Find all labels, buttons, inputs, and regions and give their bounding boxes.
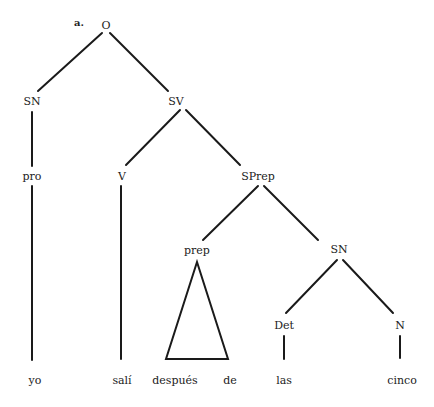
tree-edges	[32, 33, 400, 360]
node-prep: prep	[184, 244, 210, 257]
node-O: O	[101, 19, 110, 32]
edge-SN-Det	[286, 260, 337, 313]
syntax-tree: a. O SN SV pro V SPrep prep SN Det N yo …	[0, 0, 434, 407]
leaf-las: las	[276, 374, 292, 387]
edge-O-SV	[110, 33, 168, 91]
node-SN-2: SN	[330, 243, 348, 256]
edge-SPrep-prep	[203, 186, 258, 240]
edge-SPrep-SN	[264, 186, 318, 240]
node-Det: Det	[274, 319, 294, 332]
leaf-sali: salí	[112, 374, 132, 387]
node-SN: SN	[23, 95, 41, 108]
leaf-cinco: cinco	[387, 374, 417, 387]
edge-SN-N	[343, 260, 393, 313]
node-V: V	[117, 170, 127, 183]
example-label: a.	[74, 17, 84, 28]
edge-SV-SPrep	[186, 110, 240, 165]
node-pro: pro	[23, 170, 42, 183]
tree-nodes: O SN SV pro V SPrep prep SN Det N	[23, 19, 406, 332]
leaf-despues: después	[152, 374, 198, 387]
node-N: N	[395, 319, 405, 332]
triangle-prep	[166, 262, 228, 359]
node-SPrep: SPrep	[241, 170, 275, 183]
tree-leaves: yo salí después de las cinco	[28, 374, 418, 387]
edge-SV-V	[126, 110, 180, 165]
leaf-yo: yo	[28, 374, 42, 387]
leaf-de: de	[223, 374, 237, 387]
node-SV: SV	[168, 95, 185, 108]
edge-O-SN	[38, 33, 102, 91]
